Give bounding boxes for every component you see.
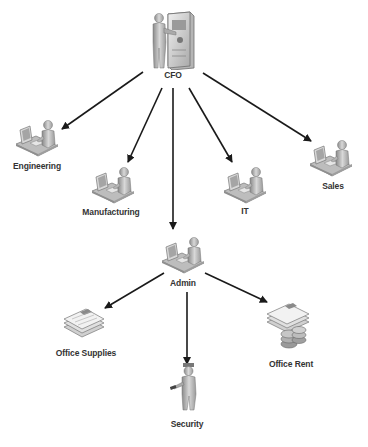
org-chart-canvas: CFO Engineering Manufacturing [0,0,368,447]
arrow-cfo-to-engineering [62,72,143,129]
node-label-sales: Sales [322,181,344,191]
node-cfo[interactable] [150,10,196,70]
node-it[interactable] [222,165,268,205]
node-sales[interactable] [308,138,354,178]
node-label-security: Security [171,419,204,429]
node-label-it: IT [241,206,248,216]
document-stack-icon [62,305,106,343]
security-guard-icon [170,362,200,412]
documents-with-coins-icon [265,298,315,350]
person-at-workstation-icon [14,118,60,158]
node-office-supplies[interactable] [62,305,106,343]
node-label-admin: Admin [170,278,196,288]
arrow-cfo-to-manufacturing [128,88,162,162]
node-label-manufacturing: Manufacturing [82,207,139,217]
node-label-cfo: CFO [164,70,182,80]
arrow-cfo-to-sales [203,73,311,141]
node-manufacturing[interactable] [90,165,136,205]
arrow-admin-to-office_rent [205,273,267,302]
arrow-admin-to-office_supplies [105,273,164,308]
person-at-workstation-icon [222,165,268,205]
node-engineering[interactable] [14,118,60,158]
node-admin[interactable] [160,235,206,275]
node-label-office-supplies: Office Supplies [56,348,116,358]
person-at-workstation-icon [90,165,136,205]
node-label-engineering: Engineering [13,161,61,171]
person-at-workstation-icon [308,138,354,178]
person-at-workstation-icon [160,235,206,275]
node-security[interactable] [170,362,200,412]
node-label-office-rent: Office Rent [269,359,313,369]
arrow-cfo-to-it [189,88,232,162]
person-with-server-icon [150,10,196,70]
node-office-rent[interactable] [265,298,315,350]
